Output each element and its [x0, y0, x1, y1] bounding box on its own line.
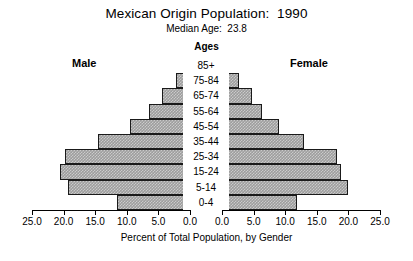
chart-subtitle: Median Age: 23.8: [0, 22, 413, 35]
age-group-label: 65-74: [183, 88, 229, 103]
axis-tick-label: 5.0: [151, 216, 165, 228]
axis-tick: [158, 210, 159, 215]
age-group-label: 25-34: [183, 149, 229, 164]
age-group-label: 15-24: [183, 164, 229, 179]
title-block: Mexican Origin Population: 1990 Median A…: [0, 0, 413, 35]
bar-female: [222, 195, 297, 210]
x-axis-female-line: [222, 210, 381, 211]
age-group-label: 55-64: [183, 104, 229, 119]
axis-tick-label: 20.0: [54, 216, 73, 228]
axis-tick: [254, 210, 255, 215]
bar-male: [130, 119, 190, 134]
axis-tick-label: 25.0: [22, 216, 41, 228]
pyramid-rows: 85+75-8465-7455-6445-5435-4425-3415-245-…: [32, 58, 380, 210]
bar-female: [222, 134, 304, 149]
x-axis-male-line: [32, 210, 191, 211]
population-pyramid-chart: Mexican Origin Population: 1990 Median A…: [0, 0, 413, 261]
axis-tick-label: 10.0: [275, 216, 294, 228]
age-group-label: 85+: [183, 58, 229, 73]
axis-tick: [285, 210, 286, 215]
axis-tick-label: 25.0: [370, 216, 389, 228]
axis-tick: [64, 210, 65, 215]
pyramid-row: 85+: [32, 58, 380, 73]
axis-tick: [380, 210, 381, 215]
axis-tick: [32, 210, 33, 215]
chart-title: Mexican Origin Population: 1990: [0, 6, 413, 22]
axis-tick-label: 10.0: [117, 216, 136, 228]
axis-tick: [127, 210, 128, 215]
bar-male: [68, 180, 190, 195]
axis-tick-label: 20.0: [339, 216, 358, 228]
pyramid-row: 55-64: [32, 104, 380, 119]
axis-tick-label: 15.0: [85, 216, 104, 228]
axis-tick-label: 0.0: [215, 216, 229, 228]
bar-female: [222, 149, 337, 164]
ages-axis-header: Ages: [0, 41, 413, 53]
axis-tick: [190, 210, 191, 215]
age-group-label: 0-4: [183, 195, 229, 210]
bar-male: [60, 164, 190, 179]
axis-tick: [317, 210, 318, 215]
pyramid-row: 75-84: [32, 73, 380, 88]
x-axis-caption: Percent of Total Population, by Gender: [0, 232, 413, 244]
bar-female: [222, 180, 348, 195]
age-group-label: 35-44: [183, 134, 229, 149]
bar-male: [98, 134, 190, 149]
pyramid-row: 5-14: [32, 180, 380, 195]
axis-tick-label: 5.0: [247, 216, 261, 228]
axis-tick: [95, 210, 96, 215]
pyramid-row: 45-54: [32, 119, 380, 134]
axis-tick: [348, 210, 349, 215]
pyramid-row: 35-44: [32, 134, 380, 149]
pyramid-row: 15-24: [32, 164, 380, 179]
age-group-label: 75-84: [183, 73, 229, 88]
axis-tick: [222, 210, 223, 215]
bar-male: [117, 195, 190, 210]
bar-female: [222, 119, 279, 134]
age-group-label: 5-14: [183, 180, 229, 195]
pyramid-row: 25-34: [32, 149, 380, 164]
age-group-label: 45-54: [183, 119, 229, 134]
bar-female: [222, 164, 341, 179]
pyramid-row: 0-4: [32, 195, 380, 210]
axis-tick-label: 0.0: [183, 216, 197, 228]
axis-tick-label: 15.0: [307, 216, 326, 228]
bar-male: [65, 149, 190, 164]
pyramid-row: 65-74: [32, 88, 380, 103]
